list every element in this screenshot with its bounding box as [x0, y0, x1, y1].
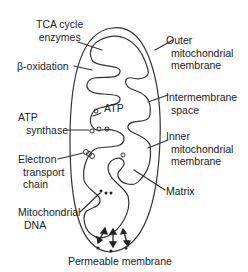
label-atp: ATP — [104, 102, 124, 115]
label-line: transport — [18, 166, 64, 179]
label-atp-synthase: ATP synthase — [18, 111, 68, 136]
label-matrix: Matrix — [166, 185, 195, 198]
inner-membrane-shape — [84, 36, 151, 238]
label-line: synthase — [18, 124, 68, 137]
label-line: DNA — [18, 219, 80, 232]
label-permeable-membrane: Permeable membrane — [68, 255, 172, 268]
label-line: Outer — [166, 34, 233, 47]
label-tca-cycle: TCA cycle enzymes — [36, 18, 83, 43]
label-line: enzymes — [36, 31, 83, 44]
label-line: Matrix — [166, 185, 195, 198]
label-line: Intermembrane — [166, 91, 237, 104]
label-line: TCA cycle — [36, 18, 83, 31]
label-line: Electron — [18, 153, 64, 166]
label-outer-membrane: Outer mitochondrial membrane — [166, 34, 233, 72]
label-line: ATP — [104, 102, 124, 115]
label-mitochondrial-dna: Mitochondrial DNA — [18, 206, 80, 231]
label-line: mitochondrial — [166, 47, 233, 60]
label-line: β-oxidation — [17, 60, 69, 73]
label-line: Mitochondrial — [18, 206, 80, 219]
label-line: Permeable membrane — [68, 255, 172, 268]
label-inner-membrane: Inner mitochondrial membrane — [166, 130, 233, 168]
label-line: ATP — [18, 111, 68, 124]
label-line: membrane — [166, 59, 233, 72]
label-line: mitochondrial — [166, 143, 233, 156]
label-line: chain — [18, 178, 64, 191]
label-electron-transport-chain: Electron transport chain — [18, 153, 64, 191]
label-line: space — [166, 104, 237, 117]
label-line: Inner — [166, 130, 233, 143]
label-line: membrane — [166, 155, 233, 168]
label-beta-oxidation: β-oxidation — [17, 60, 69, 73]
label-intermembrane-space: Intermembrane space — [166, 91, 237, 116]
